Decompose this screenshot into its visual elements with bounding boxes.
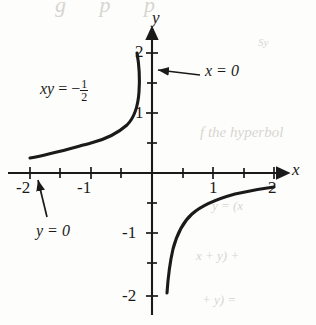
- annotation-x-equals-zero: x = 0: [205, 62, 239, 80]
- y-tick-label-neg1: -1: [122, 223, 136, 243]
- equation-sign: −: [71, 80, 80, 97]
- x-tick-label-pos1: 1: [209, 178, 218, 198]
- annotation-y-equals-zero-text: y = 0: [36, 222, 70, 239]
- hyperbola-graph: [0, 0, 316, 325]
- y-tick-label-pos2: 2: [135, 42, 144, 62]
- y-axis-label: y: [152, 8, 160, 28]
- equation-label: xy = −12: [40, 78, 88, 103]
- x-tick-label-neg2: -2: [16, 178, 30, 198]
- x-axis-label: x: [292, 160, 300, 180]
- annotation-x-equals-zero-text: x = 0: [205, 62, 239, 79]
- y-equals-zero-arrow: [38, 180, 47, 217]
- equation-denominator: 2: [80, 91, 88, 103]
- annotation-y-equals-zero: y = 0: [36, 222, 70, 240]
- branch-upper-left: [30, 53, 139, 158]
- equation-fraction: 12: [80, 78, 88, 103]
- y-tick-label-neg2: -2: [122, 286, 136, 306]
- x-tick-label-pos2: 2: [268, 178, 277, 198]
- x-tick-label-neg1: -1: [77, 178, 91, 198]
- equation-equals: =: [58, 80, 67, 97]
- branch-lower-right: [167, 187, 274, 293]
- y-tick-label-pos1: 1: [135, 103, 144, 123]
- equation-lhs: xy: [40, 80, 54, 97]
- x-equals-zero-arrow: [158, 70, 200, 75]
